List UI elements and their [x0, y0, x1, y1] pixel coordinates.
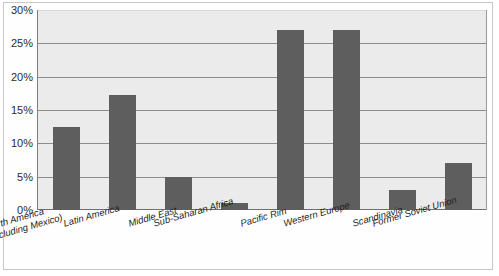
- gridline-20pct: [38, 77, 486, 78]
- gridline-15pct: [38, 110, 486, 111]
- y-axis-tick-25pct: 25%: [11, 38, 33, 49]
- y-axis-tick-5pct: 5%: [17, 171, 33, 182]
- y-axis-tick-30pct: 30%: [11, 5, 33, 16]
- gridline-5pct: [38, 177, 486, 178]
- y-axis-tick-10pct: 10%: [11, 138, 33, 149]
- y-axis-tick-15pct: 15%: [11, 105, 33, 116]
- bar: [277, 30, 304, 210]
- x-axis-labels: North America(including Mexico)Latin Ame…: [37, 212, 487, 270]
- bar-chart-figure: 0%5%10%15%20%25%30% North America(includ…: [0, 0, 499, 276]
- gridline-10pct: [38, 143, 486, 144]
- y-axis-tick-20pct: 20%: [11, 71, 33, 82]
- plot-area: 0%5%10%15%20%25%30%: [37, 10, 487, 210]
- bar: [333, 30, 360, 210]
- bar: [53, 127, 80, 210]
- bar: [109, 95, 136, 210]
- gridline-25pct: [38, 43, 486, 44]
- gridline-30pct: [38, 10, 486, 11]
